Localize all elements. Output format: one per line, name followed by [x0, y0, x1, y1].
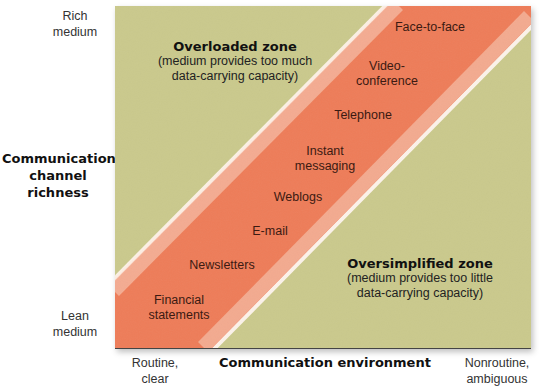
media-label-2: messaging — [275, 159, 375, 174]
y-title-line3: richness — [2, 184, 114, 201]
media-label-2: statements — [139, 308, 219, 323]
media-instant-messaging: Instant messaging — [275, 144, 375, 174]
oversimplified-zone-label: Oversimplified zone (medium provides too… — [320, 256, 520, 301]
x-title: Communication environment — [210, 354, 440, 371]
y-top-line2: medium — [40, 24, 110, 40]
x-left-line2: clear — [115, 371, 195, 387]
media-label: Weblogs — [258, 190, 338, 205]
media-telephone: Telephone — [313, 108, 413, 123]
media-label: E-mail — [230, 224, 310, 239]
oversimplified-zone-desc2: data-carrying capacity) — [320, 286, 520, 301]
media-label-2: conference — [337, 74, 437, 89]
media-label: Video- — [337, 59, 437, 74]
y-title-line1: Communication — [2, 150, 114, 167]
y-bottom-line2: medium — [40, 324, 110, 340]
y-axis-title: Communication channel richness — [2, 150, 114, 201]
overloaded-zone-title: Overloaded zone — [135, 39, 335, 54]
media-label: Telephone — [313, 108, 413, 123]
media-weblogs: Weblogs — [258, 190, 338, 205]
oversimplified-zone-title: Oversimplified zone — [320, 256, 520, 271]
richness-plot: Overloaded zone (medium provides too muc… — [115, 6, 531, 349]
media-label: Instant — [275, 144, 375, 159]
y-bottom-line1: Lean — [40, 308, 110, 324]
x-axis-right-label: Nonroutine, ambiguous — [455, 355, 539, 387]
x-axis-title: Communication environment — [210, 354, 440, 371]
x-left-line1: Routine, — [115, 355, 195, 371]
media-videoconference: Video- conference — [337, 59, 437, 89]
y-top-line1: Rich — [40, 8, 110, 24]
media-label: Financial — [139, 293, 219, 308]
media-newsletters: Newsletters — [177, 258, 267, 273]
media-email: E-mail — [230, 224, 310, 239]
media-face-to-face: Face-to-face — [370, 20, 490, 35]
y-title-line2: channel — [2, 167, 114, 184]
x-right-line1: Nonroutine, — [455, 355, 539, 371]
overloaded-zone-label: Overloaded zone (medium provides too muc… — [135, 39, 335, 84]
overloaded-zone-desc2: data-carrying capacity) — [135, 69, 335, 84]
y-axis-bottom-label: Lean medium — [40, 308, 110, 340]
x-axis-left-label: Routine, clear — [115, 355, 195, 387]
x-right-line2: ambiguous — [455, 371, 539, 387]
media-financial-statements: Financial statements — [139, 293, 219, 323]
y-axis-top-label: Rich medium — [40, 8, 110, 40]
media-label: Face-to-face — [370, 20, 490, 35]
media-label: Newsletters — [177, 258, 267, 273]
oversimplified-zone-desc1: (medium provides too little — [320, 271, 520, 286]
overloaded-zone-desc1: (medium provides too much — [135, 54, 335, 69]
